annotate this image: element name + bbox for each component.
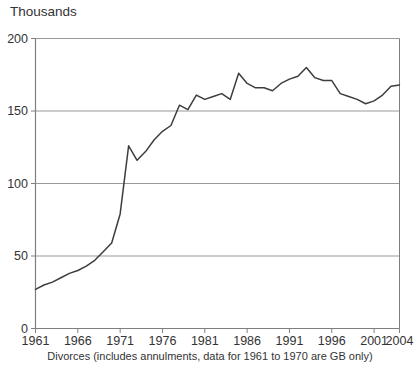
y-tick-label: 150 [7,104,28,118]
x-tick-label: 1996 [318,334,346,348]
chart-caption: Divorces (includes annulments, data for … [25,350,395,362]
y-tick-label: 200 [7,32,28,46]
divorces-line-chart: 0501001502001961196619711976198119861991… [0,0,420,350]
x-tick-label: 1976 [149,334,177,348]
x-tick-label: 2001 [360,334,388,348]
x-tick-label: 1966 [64,334,92,348]
x-tick-label: 2004 [386,334,414,348]
divorce-chart-figure: Thousands 050100150200196119661971197619… [0,0,420,372]
y-tick-label: 100 [7,177,28,191]
x-tick-label: 1991 [276,334,304,348]
x-tick-label: 1971 [106,334,134,348]
y-tick-label: 50 [14,249,28,263]
x-tick-label: 1986 [233,334,261,348]
x-tick-label: 1981 [191,334,219,348]
x-tick-label: 1961 [22,334,50,348]
